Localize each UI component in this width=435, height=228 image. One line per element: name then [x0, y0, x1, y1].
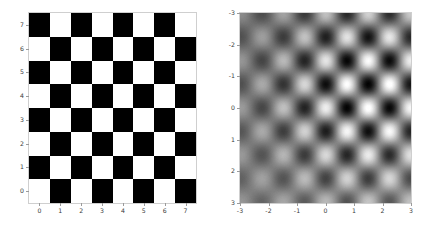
xtick-label: -2 [265, 208, 271, 214]
xtick-mark [165, 203, 166, 206]
image-right-checkerboard-smooth [240, 13, 411, 203]
xtick-label: 1 [352, 208, 356, 214]
ytick-label: -3 [229, 10, 235, 16]
xtick-label: 0 [323, 208, 327, 214]
ytick-label: 6 [20, 46, 24, 52]
ytick-mark [237, 171, 240, 172]
xtick-mark [39, 203, 40, 206]
xtick-mark [144, 203, 145, 206]
xtick-label: 2 [79, 208, 83, 214]
ytick-mark [26, 120, 29, 121]
axes-left-nearest: 01234567 01234567 [29, 13, 196, 203]
xtick-label: -3 [237, 208, 243, 214]
ytick-mark [26, 144, 29, 145]
xtick-label: 7 [184, 208, 188, 214]
ytick-mark [237, 203, 240, 204]
xtick-label: 0 [37, 208, 41, 214]
ytick-label: -1 [229, 73, 235, 79]
ytick-label: 2 [20, 141, 24, 147]
heatmap-canvas-left [29, 13, 196, 203]
ytick-label: 4 [20, 93, 24, 99]
ytick-mark [26, 96, 29, 97]
xtick-mark [186, 203, 187, 206]
xtick-label: 6 [163, 208, 167, 214]
ytick-label: 3 [20, 117, 24, 123]
ytick-label: 0 [20, 188, 24, 194]
ytick-label: 7 [20, 22, 24, 28]
ytick-mark [237, 13, 240, 14]
xtick-label: 3 [100, 208, 104, 214]
xtick-mark [383, 203, 384, 206]
xtick-mark [411, 203, 412, 206]
matplotlib-figure: 01234567 01234567 -3-2-10123 -3-2-10123 [0, 0, 435, 228]
ytick-label: 0 [231, 105, 235, 111]
xtick-mark [269, 203, 270, 206]
ytick-mark [26, 167, 29, 168]
ytick-mark [26, 191, 29, 192]
ytick-label: 2 [231, 168, 235, 174]
ytick-mark [237, 108, 240, 109]
xtick-mark [297, 203, 298, 206]
ytick-mark [237, 45, 240, 46]
ytick-label: -2 [229, 42, 235, 48]
xtick-label: 5 [142, 208, 146, 214]
ytick-label: 1 [231, 137, 235, 143]
ytick-mark [237, 140, 240, 141]
ytick-mark [237, 76, 240, 77]
xtick-mark [102, 203, 103, 206]
xtick-mark [60, 203, 61, 206]
xtick-label: 2 [380, 208, 384, 214]
ytick-label: 1 [20, 164, 24, 170]
xtick-mark [240, 203, 241, 206]
image-left-checkerboard [29, 13, 196, 203]
xtick-mark [354, 203, 355, 206]
ytick-mark [26, 72, 29, 73]
heatmap-canvas-right [240, 13, 411, 203]
xtick-label: 4 [121, 208, 125, 214]
ytick-mark [26, 25, 29, 26]
xtick-mark [81, 203, 82, 206]
ytick-mark [26, 49, 29, 50]
xtick-mark [326, 203, 327, 206]
axes-right-interpolated: -3-2-10123 -3-2-10123 [240, 13, 411, 203]
ytick-label: 5 [20, 69, 24, 75]
ytick-label: 3 [231, 200, 235, 206]
xtick-label: 1 [58, 208, 62, 214]
xtick-label: 3 [409, 208, 413, 214]
xtick-label: -1 [294, 208, 300, 214]
xtick-mark [123, 203, 124, 206]
